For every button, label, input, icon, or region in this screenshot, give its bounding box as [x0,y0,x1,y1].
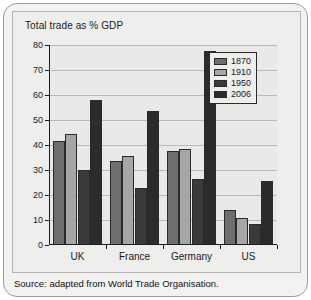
legend-label: 1910 [231,68,251,77]
y-axis-tick-label: 10 [33,215,43,225]
legend-label: 1870 [231,57,251,66]
bar [249,224,261,245]
bar [224,210,236,245]
chart-card: Total trade as % GDP 01020304050607080 U… [12,11,301,273]
bar [110,161,122,245]
y-axis-tick-label: 50 [33,115,43,125]
x-axis-tick-mark [220,245,221,249]
bar [53,141,65,245]
y-axis-tick-label: 0 [38,240,43,250]
bar [167,151,179,245]
y-axis-tick-label: 60 [33,90,43,100]
bar [65,134,77,245]
legend-label: 1950 [231,79,251,88]
x-axis-line [49,244,277,245]
legend-swatch [214,69,227,76]
legend: 1870191019502006 [209,52,257,104]
x-axis-tick-mark [277,245,278,249]
x-axis-category-label: UK [71,251,85,262]
bar [90,100,102,245]
y-axis-line [49,45,50,245]
x-axis-category-label: US [242,251,256,262]
legend-item: 1950 [214,78,251,89]
x-axis-category-label: France [119,251,150,262]
bar [236,218,248,246]
x-axis-category-label: Germany [171,251,212,262]
y-axis-tick-label: 30 [33,165,43,175]
legend-swatch [214,58,227,65]
legend-swatch [214,80,227,87]
bar [78,170,90,245]
legend-swatch [214,91,227,98]
legend-item: 1870 [214,56,251,67]
source-caption: Source: adapted from World Trade Organis… [14,278,219,289]
bar [261,181,273,245]
y-axis-tick-label: 20 [33,190,43,200]
legend-item: 1910 [214,67,251,78]
legend-item: 2006 [214,89,251,100]
chart-title: Total trade as % GDP [25,20,123,31]
y-axis-tick-mark [45,245,49,246]
x-axis-tick-mark [163,245,164,249]
figure-frame: Total trade as % GDP 01020304050607080 U… [3,3,308,297]
y-axis-tick-label: 80 [33,40,43,50]
y-axis-tick-label: 40 [33,140,43,150]
legend-label: 2006 [231,90,251,99]
bar [179,149,191,245]
x-axis-tick-mark [106,245,107,249]
bar [192,179,204,245]
bar [122,156,134,245]
bar [147,111,159,245]
y-axis-tick-label: 70 [33,65,43,75]
bar [135,188,147,246]
